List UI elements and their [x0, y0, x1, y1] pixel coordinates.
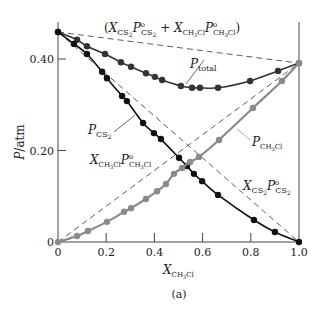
ideal-total-label: (XCS2PoCS2 + XCH3ClPoCH3Cl) [104, 21, 240, 38]
x-tick-label: 0.2 [97, 246, 115, 259]
x-axis-label: XCH3Cl [162, 263, 195, 280]
p-ch3cl-point [279, 78, 285, 84]
p-ch3cl-point [196, 154, 202, 160]
y-tick-label: 0.20 [30, 145, 55, 158]
p-total-point [118, 59, 124, 65]
p-total-point [128, 64, 134, 70]
y-axis-label: P/atm [13, 124, 27, 161]
x-axis-ticks: 00.20.40.60.81.0 [55, 233, 308, 259]
p-total-point [159, 77, 165, 83]
p-total-point [152, 74, 158, 80]
p-ch3cl-point [154, 188, 160, 194]
ptotal-label: Ptotal [189, 57, 217, 73]
p-ch3cl-point [121, 209, 127, 215]
y-tick-label: 0 [47, 236, 54, 249]
x-tick-label: 0.4 [146, 246, 164, 259]
p-total-point [215, 85, 221, 91]
p-cs2-point [84, 51, 90, 57]
p-ch3cl-point [104, 219, 110, 225]
p-ch3cl-point [250, 105, 256, 111]
p-cs2-point [296, 239, 302, 245]
p-ch3cl-point [216, 137, 222, 143]
p-total-point [247, 78, 253, 84]
p-ch3cl-point [74, 233, 80, 239]
p-ch3cl-point [296, 60, 302, 66]
p-ch3cl-point [143, 196, 149, 202]
figure-caption: (a) [171, 288, 186, 301]
y-tick-label: 0.40 [30, 53, 55, 66]
pch3cl-leader-line [237, 129, 250, 140]
x-ch3cl-p-ch3cl-label: XCH3ClPoCH3Cl [89, 153, 152, 170]
p-total-curve [58, 32, 299, 88]
x-cs2-p-cs2-label: XCS2PoCS2 [242, 179, 291, 196]
ideal-line [58, 32, 299, 63]
p-cs2-point [151, 130, 157, 136]
p-cs2-point [251, 217, 257, 223]
p-total-point [143, 70, 149, 76]
y-axis-ticks: 00.200.40 [30, 53, 67, 249]
p-ch3cl-point [163, 181, 169, 187]
pcs2-leader-line [114, 115, 135, 132]
p-ch3cl-point [85, 228, 91, 234]
p-total-point [197, 85, 203, 91]
vapor-pressure-chart: 00.20.40.60.81.0 00.200.40 (XCS2PoCS2 + … [0, 0, 322, 310]
p-ch3cl-point [187, 159, 193, 165]
p-cs2-point [158, 136, 164, 142]
p-cs2-point [272, 229, 278, 235]
p-cs2-point [99, 69, 105, 75]
x-tick-label: 0.8 [242, 246, 260, 259]
x-tick-label: 0.6 [194, 246, 212, 259]
ideal-line [58, 32, 299, 242]
p-cs2-point [140, 120, 146, 126]
p-cs2-point [55, 29, 61, 35]
p-ch3cl-point [55, 239, 61, 245]
pcs2-label: PCS2 [87, 123, 112, 140]
p-total-point [189, 85, 195, 91]
p-total-point [275, 68, 281, 74]
p-cs2-point [191, 171, 197, 177]
p-cs2-point [124, 98, 130, 104]
p-ch3cl-point [171, 171, 177, 177]
pch3cl-label: PCH3Cl [251, 135, 283, 152]
p-cs2-point [199, 178, 205, 184]
p-cs2-point [176, 155, 182, 161]
p-ch3cl-point [128, 205, 134, 211]
p-cs2-point [215, 192, 221, 198]
p-cs2-point [119, 93, 125, 99]
raoult-ideal-lines [58, 32, 299, 242]
p-total-point [102, 51, 108, 57]
x-tick-label: 1.0 [290, 246, 308, 259]
p-cs2-point [104, 75, 110, 81]
p-cs2-point [71, 41, 77, 47]
p-total-point [178, 83, 184, 89]
p-total-point [84, 43, 90, 49]
p-ch3cl-point [179, 165, 185, 171]
x-tick-label: 0 [55, 246, 62, 259]
